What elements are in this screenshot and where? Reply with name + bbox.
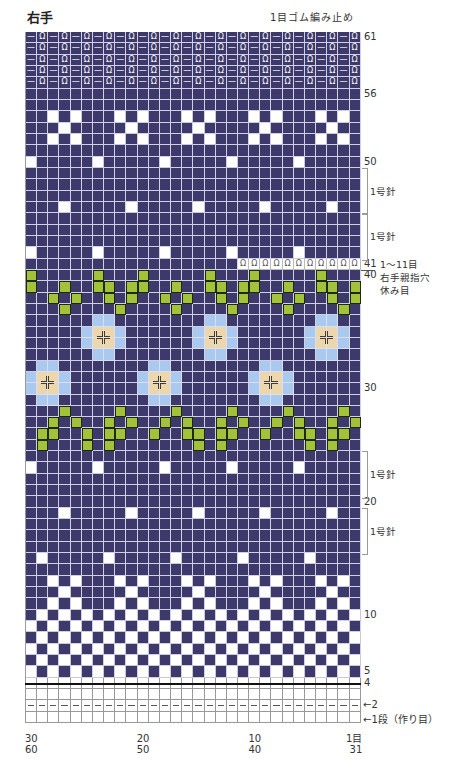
chart-cell: Ω (126, 77, 137, 88)
chart-cell (138, 428, 149, 439)
chart-cell (350, 111, 361, 122)
chart-cell (249, 406, 260, 417)
row-label: ←1段（作り目） (363, 711, 438, 726)
chart-cell (59, 553, 70, 564)
chart-cell (327, 247, 338, 258)
chart-cell (93, 157, 104, 168)
chart-cell (26, 281, 37, 292)
chart-cell (260, 123, 271, 134)
chart-cell: Ω (59, 43, 70, 54)
chart-cell (71, 100, 82, 111)
chart-cell (115, 621, 126, 632)
chart-cell (294, 542, 305, 553)
chart-cell (182, 553, 193, 564)
chart-cell (115, 123, 126, 134)
chart-cell (160, 644, 171, 655)
chart-cell (238, 564, 249, 575)
chart-cell (93, 304, 104, 315)
chart-cell (104, 100, 115, 111)
chart-cell (138, 610, 149, 621)
chart-cell (93, 666, 104, 677)
chart-cell: Ω (104, 43, 115, 54)
chart-cell (193, 700, 204, 711)
chart-cell (115, 213, 126, 224)
thumb-annotation-2: 右手親指穴 (380, 270, 430, 284)
chart-cell: — (294, 55, 305, 66)
chart-cell (93, 191, 104, 202)
chart-cell (171, 304, 182, 315)
chart-cell (350, 508, 361, 519)
chart-cell (260, 157, 271, 168)
chart-cell (327, 349, 338, 360)
chart-cell (271, 462, 282, 473)
chart-cell (59, 700, 70, 711)
chart-cell (182, 327, 193, 338)
chart-cell: — (205, 55, 216, 66)
chart-cell (138, 621, 149, 632)
chart-cell (171, 293, 182, 304)
chart-cell (227, 462, 238, 473)
chart-cell: — (182, 55, 193, 66)
chart-cell (227, 281, 238, 292)
chart-cell (138, 134, 149, 145)
chart-cell (182, 372, 193, 383)
chart-cell (249, 100, 260, 111)
chart-cell (71, 247, 82, 258)
chart-cell (59, 474, 70, 485)
chart-cell (294, 225, 305, 236)
chart-cell: Ω (37, 77, 48, 88)
chart-cell (294, 598, 305, 609)
chart-cell (126, 123, 137, 134)
chart-cell (149, 542, 160, 553)
chart-cell (93, 644, 104, 655)
chart-cell (283, 327, 294, 338)
chart-cell (93, 213, 104, 224)
chart-cell (316, 598, 327, 609)
chart-cell (115, 349, 126, 360)
chart-cell (182, 666, 193, 677)
chart-cell (238, 496, 249, 507)
chart-cell (260, 485, 271, 496)
chart-cell (171, 440, 182, 451)
chart-cell (193, 440, 204, 451)
chart-cell (182, 304, 193, 315)
chart-cell (271, 655, 282, 666)
chart-cell (104, 123, 115, 134)
chart-cell (115, 440, 126, 451)
chart-cell (71, 134, 82, 145)
chart-cell (26, 440, 37, 451)
chart-cell (283, 519, 294, 530)
chart-cell (260, 610, 271, 621)
chart-cell (26, 259, 37, 270)
chart-cell (93, 236, 104, 247)
chart-cell (171, 508, 182, 519)
chart-cell (71, 508, 82, 519)
chart-cell (82, 111, 93, 122)
chart-cell (59, 542, 70, 553)
chart-cell (138, 587, 149, 598)
chart-cell (59, 259, 70, 270)
chart-cell (138, 89, 149, 100)
chart-cell (48, 281, 59, 292)
chart-cell (205, 225, 216, 236)
chart-cell (260, 225, 271, 236)
chart-cell (271, 496, 282, 507)
chart-cell (327, 236, 338, 247)
chart-cell (37, 281, 48, 292)
chart-cell (294, 293, 305, 304)
chart-cell (37, 259, 48, 270)
chart-cell (327, 462, 338, 473)
chart-cell (82, 134, 93, 145)
chart-cell (48, 496, 59, 507)
chart-cell (260, 644, 271, 655)
chart-cell (71, 315, 82, 326)
chart-cell (238, 689, 249, 700)
chart-cell (249, 270, 260, 281)
chart-cell (59, 451, 70, 462)
chart-cell (115, 134, 126, 145)
chart-cell (171, 191, 182, 202)
chart-cell: Ω (149, 32, 160, 43)
chart-cell (193, 293, 204, 304)
chart-cell (71, 111, 82, 122)
chart-cell (338, 383, 349, 394)
